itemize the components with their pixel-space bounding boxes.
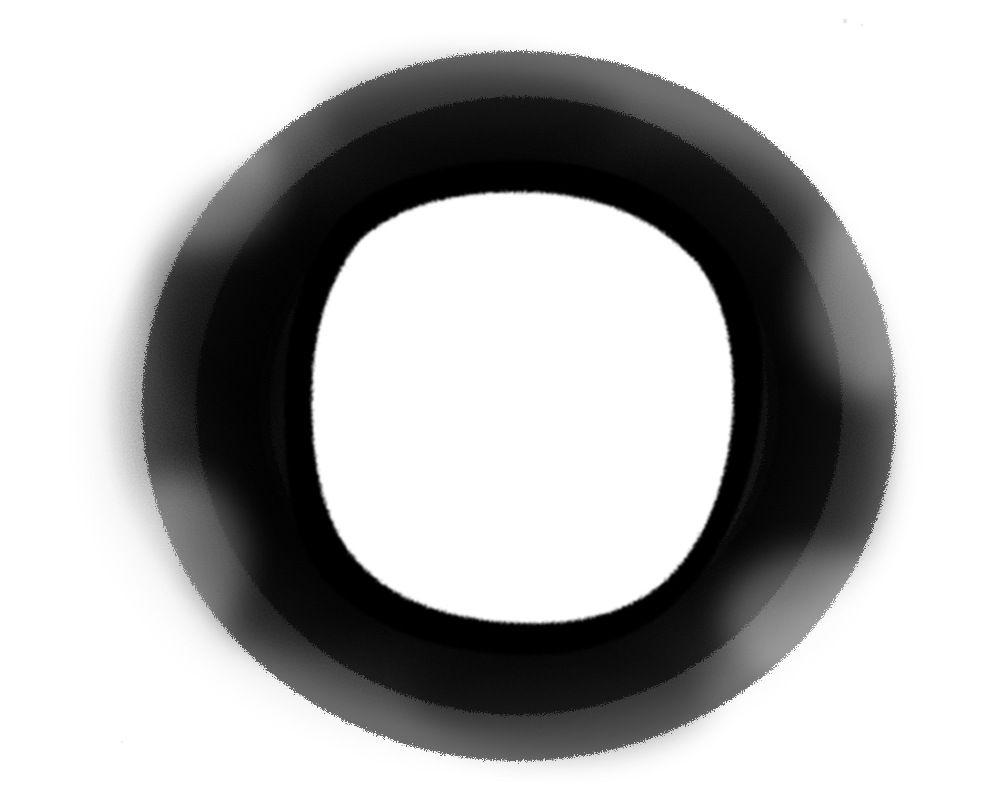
charcoal-speck [843,19,847,23]
charcoal-speck [861,24,864,27]
charcoal-speck [120,740,123,743]
charcoal-ring-illustration [0,0,993,788]
artwork-canvas: Charcoal Ring A thick black hand-drawn c… [0,0,993,788]
inner-disc [312,192,733,623]
